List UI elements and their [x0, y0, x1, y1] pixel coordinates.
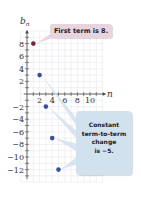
data-point: [50, 136, 55, 141]
callout-term-change: Constant term-to-term change is −5.: [76, 111, 132, 175]
callout-line: Constant: [76, 121, 132, 130]
data-point: [37, 73, 42, 78]
data-point: [56, 167, 61, 172]
callout-first-term: First term is 8.: [50, 24, 112, 38]
svg-text:2: 2: [19, 77, 24, 86]
x-axis-label: n: [107, 89, 113, 99]
svg-text:6: 6: [19, 52, 24, 61]
callout-leaders: [36, 33, 78, 170]
svg-text:4: 4: [19, 65, 24, 74]
svg-text:4: 4: [50, 96, 55, 105]
svg-text:2: 2: [37, 96, 42, 105]
data-point: [44, 104, 49, 109]
svg-text:−10: −10: [7, 153, 24, 162]
y-axis-label: bn: [20, 16, 30, 27]
svg-text:8: 8: [75, 96, 80, 105]
svg-text:8: 8: [19, 40, 24, 49]
svg-text:−2: −2: [12, 103, 24, 112]
svg-text:−8: −8: [12, 140, 24, 149]
data-point: [31, 41, 36, 46]
svg-text:10: 10: [85, 96, 95, 105]
svg-text:−6: −6: [12, 128, 24, 137]
callout-line: change: [76, 138, 132, 147]
callout-line: term-to-term: [76, 130, 132, 139]
svg-text:−4: −4: [12, 115, 24, 124]
callout-line: is −5.: [76, 147, 132, 156]
svg-text:−12: −12: [7, 166, 24, 175]
